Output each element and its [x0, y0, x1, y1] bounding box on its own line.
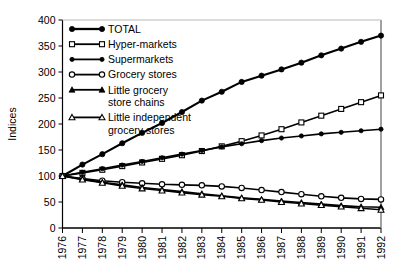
x-tick-label: 1979 [116, 236, 128, 260]
x-tick-label: 1977 [76, 236, 88, 260]
x-tick-label: 1982 [176, 236, 188, 260]
data-point-marker [339, 130, 343, 134]
series-little-grocery-store-chains [60, 173, 385, 210]
data-point-marker [259, 187, 264, 192]
x-tick-label: 1991 [355, 236, 367, 260]
data-point-marker [160, 156, 164, 160]
data-point-marker [100, 57, 104, 61]
data-point-marker [259, 73, 264, 78]
data-point-marker [239, 195, 245, 200]
data-point-marker [69, 26, 74, 31]
data-point-marker [120, 163, 124, 167]
data-point-marker [359, 100, 364, 105]
data-point-marker [358, 39, 363, 44]
data-point-marker [278, 199, 284, 204]
data-point-marker [299, 60, 304, 65]
legend-item-little-grocery[interactable]: Little grocery [69, 84, 169, 96]
legend-label: TOTAL [108, 23, 141, 35]
x-tick-label: 1988 [295, 236, 307, 260]
series-little-independent-grocery-stores [60, 173, 385, 212]
data-point-marker [319, 113, 324, 118]
y-tick-label: 300 [38, 66, 56, 78]
legend-label: Little grocery [108, 84, 169, 96]
data-point-marker [100, 42, 105, 47]
data-point-marker [279, 67, 284, 72]
data-point-marker [100, 167, 104, 171]
data-point-marker [339, 46, 344, 51]
chart-legend: TOTALHyper-marketsSupermarketsGrocery st… [69, 23, 191, 136]
data-point-marker [378, 33, 383, 38]
data-point-marker [279, 136, 283, 140]
y-tick-label: 0 [50, 222, 56, 234]
legend-item-supermarkets[interactable]: Supermarkets [70, 53, 173, 65]
legend-label-continuation: grocery stores [108, 124, 175, 136]
legend-item-grocery-stores[interactable]: Grocery stores [69, 68, 177, 80]
legend-label: Grocery stores [108, 68, 177, 80]
data-point-marker [339, 106, 344, 111]
data-point-marker [99, 114, 105, 119]
legend-item-hyper-markets[interactable]: Hyper-markets [70, 38, 177, 50]
y-tick-label: 350 [38, 40, 56, 52]
data-point-marker [239, 185, 244, 190]
data-point-marker [259, 139, 263, 143]
data-point-marker [69, 114, 75, 119]
legend-item-total[interactable]: TOTAL [69, 23, 141, 35]
x-tick-label: 1978 [96, 236, 108, 260]
data-point-marker [199, 183, 204, 188]
data-point-marker [319, 132, 323, 136]
x-tick-label: 1989 [315, 236, 327, 260]
y-tick-label: 100 [38, 170, 56, 182]
data-point-marker [99, 26, 104, 31]
data-point-marker [279, 189, 284, 194]
data-point-marker [70, 57, 74, 61]
legend-label-continuation: store chains [108, 96, 165, 108]
data-point-marker [259, 133, 264, 138]
y-tick-label: 400 [38, 14, 56, 26]
data-point-marker [319, 194, 324, 199]
data-point-marker [69, 72, 74, 77]
data-point-marker [338, 204, 344, 209]
data-point-marker [219, 89, 224, 94]
data-point-marker [220, 145, 224, 149]
x-tick-label: 1983 [195, 236, 207, 260]
legend-label: Supermarkets [108, 53, 173, 65]
y-tick-label: 250 [38, 92, 56, 104]
data-point-marker [358, 196, 363, 201]
data-point-marker [378, 197, 383, 202]
x-tick-label: 1990 [335, 236, 347, 260]
data-point-marker [318, 202, 324, 207]
data-point-marker [299, 192, 304, 197]
y-tick-label: 200 [38, 118, 56, 130]
data-point-marker [140, 159, 144, 163]
data-point-marker [240, 142, 244, 146]
data-point-marker [359, 129, 363, 133]
y-axis: 050100150200250300350400 [38, 14, 63, 234]
data-point-marker [379, 93, 384, 98]
data-point-marker [298, 201, 304, 206]
data-point-marker [239, 79, 244, 84]
data-point-marker [80, 170, 84, 174]
data-point-marker [199, 98, 204, 103]
legend-label: Little independent [108, 111, 191, 123]
x-tick-label: 1980 [136, 236, 148, 260]
data-point-marker [379, 127, 383, 131]
data-point-marker [199, 192, 205, 197]
data-point-marker [70, 42, 75, 47]
x-tick-label: 1992 [375, 236, 387, 260]
data-point-marker [219, 193, 225, 198]
data-point-marker [259, 197, 265, 202]
data-point-marker [338, 195, 343, 200]
y-axis-title: Indices [6, 107, 18, 140]
data-point-marker [299, 134, 303, 138]
data-point-marker [279, 127, 284, 132]
x-tick-label: 1985 [235, 236, 247, 260]
data-point-marker [80, 162, 85, 167]
x-tick-label: 1984 [215, 236, 227, 260]
x-tick-label: 1986 [255, 236, 267, 260]
x-axis: 1976197719781979198019811982198319841985… [56, 20, 387, 259]
data-point-marker [299, 120, 304, 125]
legend-item-little-independent[interactable]: Little independent [69, 111, 191, 123]
line-chart: 050100150200250300350400 197619771978197… [0, 0, 405, 279]
data-point-marker [99, 72, 104, 77]
data-point-marker [200, 148, 204, 152]
